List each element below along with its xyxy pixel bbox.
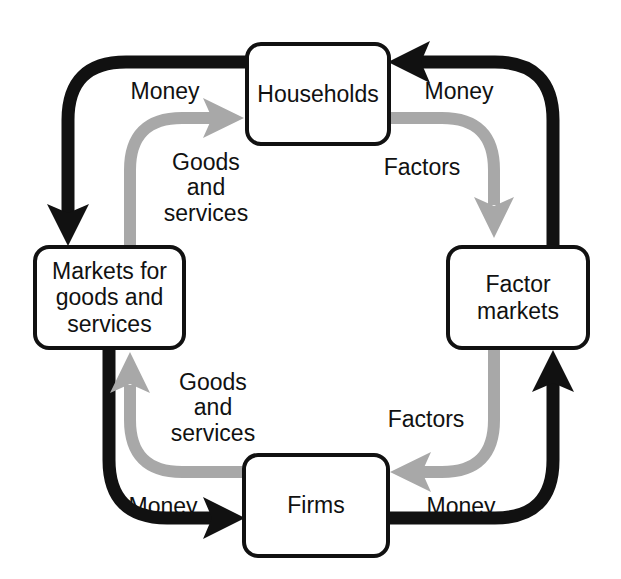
label-goods-bottom-left: Goods and services — [155, 370, 271, 446]
node-firms-label: Firms — [287, 492, 344, 518]
node-factor-markets[interactable]: Factor markets — [446, 245, 590, 350]
node-markets-goods-services-label: Markets for goods and services — [37, 258, 182, 337]
circular-flow-diagram: Households Markets for goods and service… — [0, 0, 621, 579]
label-money-bottom-right: Money — [406, 494, 516, 519]
label-money-bottom-left: Money — [108, 494, 218, 519]
node-factor-markets-label: Factor markets — [450, 271, 586, 324]
label-factors-top-right: Factors — [370, 155, 474, 180]
label-goods-top-left: Goods and services — [148, 150, 264, 226]
label-money-top-left: Money — [110, 79, 220, 104]
node-firms[interactable]: Firms — [242, 453, 390, 558]
node-markets-goods-services[interactable]: Markets for goods and services — [33, 245, 186, 350]
label-money-top-right: Money — [404, 79, 514, 104]
node-households[interactable]: Households — [245, 42, 391, 146]
node-households-label: Households — [257, 81, 378, 107]
label-factors-bottom-right: Factors — [374, 407, 478, 432]
arrow-money-factor-markets-to-households — [388, 41, 553, 246]
